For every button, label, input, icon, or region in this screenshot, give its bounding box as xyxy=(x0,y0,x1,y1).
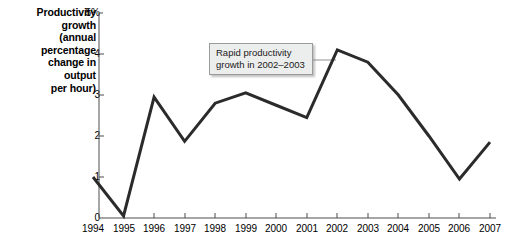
annotation-callout: Rapid productivity growth in 2002–2003 xyxy=(209,43,313,75)
y-axis-ticks xyxy=(99,54,104,177)
x-axis-ticks xyxy=(124,213,490,218)
productivity-growth-chart-figure: Productivity growth (annual percentage c… xyxy=(0,0,506,244)
annotation-line-2: growth in 2002–2003 xyxy=(216,59,307,71)
annotation-line-1: Rapid productivity xyxy=(216,47,307,59)
chart-plot-area xyxy=(0,0,506,244)
